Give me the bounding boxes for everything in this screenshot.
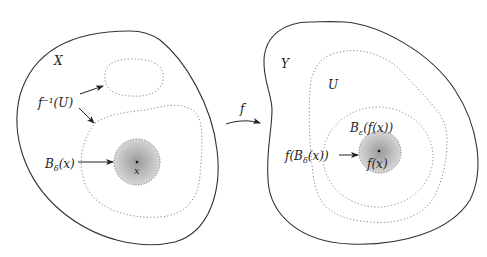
- preimage-label: f⁻¹(U): [37, 96, 73, 110]
- map-f-label: f: [239, 102, 247, 116]
- point-x-label: x: [134, 165, 140, 176]
- preimage-arrow-2: [79, 108, 94, 123]
- map-f-arrow: [226, 121, 260, 124]
- image-delta-ball-label: f(Bδ(x)): [284, 149, 329, 165]
- preimage-component-small: [105, 59, 163, 96]
- epsilon-ball-label: Bε(f(x)): [349, 121, 393, 137]
- point-x-dot: [136, 161, 139, 164]
- point-fx-label: f(x): [366, 157, 388, 171]
- space-x-outline: [17, 31, 218, 245]
- continuity-diagram: X f⁻¹(U) Bδ(x) x f Y U Bε(f(x)) f(Bδ(x))…: [0, 0, 487, 257]
- map-f: f: [226, 102, 260, 124]
- space-y: Y U Bε(f(x)) f(Bδ(x)) f(x): [264, 22, 478, 245]
- preimage-arrow-1: [80, 86, 103, 94]
- point-fx-dot: [378, 150, 381, 153]
- space-x-label: X: [53, 54, 63, 68]
- space-x: X f⁻¹(U) Bδ(x) x: [17, 31, 218, 245]
- open-set-u-label: U: [328, 78, 339, 92]
- space-y-label: Y: [281, 57, 290, 71]
- delta-ball-label: Bδ(x): [44, 157, 75, 173]
